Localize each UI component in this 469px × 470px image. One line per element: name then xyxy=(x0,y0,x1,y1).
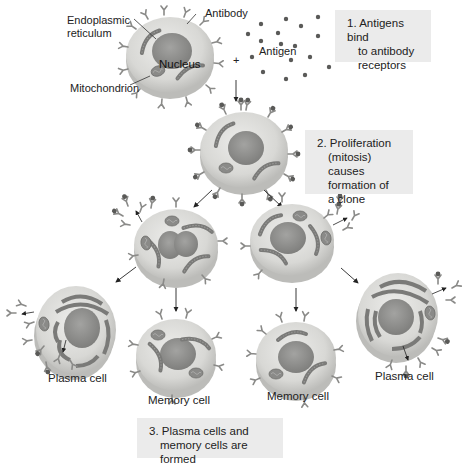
step-3-box: 3. Plasma cells and memory cells are for… xyxy=(137,418,283,458)
plasma-cell-right xyxy=(356,273,438,363)
step-3-line-1: 3. Plasma cells and xyxy=(149,424,273,438)
caption-plasma-cell-right: Plasma cell xyxy=(375,370,434,382)
label-er-line1: Endoplasmic xyxy=(67,14,130,26)
label-nucleus: Nucleus xyxy=(159,58,201,71)
step-2-box: 2. Proliferation (mitosis) causes format… xyxy=(305,130,413,194)
step-1-text-2: to antibody xyxy=(347,44,421,58)
memory-cell-left xyxy=(129,309,224,404)
caption-memory-cell-right: Memory cell xyxy=(267,390,329,402)
step-2-text-4: a clone xyxy=(317,192,403,206)
label-plus-sign: + xyxy=(233,54,239,67)
dividing-cell-right xyxy=(241,193,334,283)
step-3-text-1: Plasma cells and xyxy=(162,425,249,437)
step-1-box: 1. Antigens bind to antibody receptors xyxy=(335,10,431,62)
step-3-number: 3. xyxy=(149,425,159,437)
b-cell-activated xyxy=(188,97,301,206)
step-1-text-3: receptors xyxy=(347,58,421,72)
label-antigen: Antigen xyxy=(259,45,296,58)
step-2-number: 2. xyxy=(317,137,327,149)
step-1-line-1: 1. Antigens bind xyxy=(347,16,421,44)
step-2-line-1: 2. Proliferation xyxy=(317,136,403,150)
label-mitochondrion: Mitochondrion xyxy=(70,82,139,95)
step-1-number: 1. xyxy=(347,17,357,29)
caption-memory-cell-left: Memory cell xyxy=(148,394,210,406)
label-endoplasmic-reticulum: Endoplasmic reticulum xyxy=(67,14,130,40)
step-2-text-1: Proliferation xyxy=(330,137,391,149)
step-2-text-2: (mitosis) causes xyxy=(317,150,403,178)
caption-plasma-cell-left: Plasma cell xyxy=(48,372,107,384)
label-er-line2: reticulum xyxy=(67,27,112,39)
step-3-text-2: memory cells are formed xyxy=(149,438,273,466)
label-antibody: Antibody xyxy=(205,7,248,20)
dividing-cell-left xyxy=(129,198,227,288)
step-2-text-3: formation of xyxy=(317,178,403,192)
